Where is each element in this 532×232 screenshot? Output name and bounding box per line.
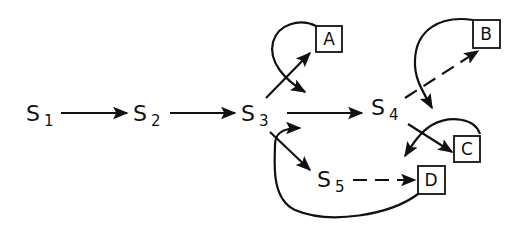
state-diagram: S 1 S 2 S 3 S 4 S 5 A B C D (0, 0, 532, 232)
node-s3: S 3 (241, 101, 269, 130)
svg-text:S: S (371, 95, 385, 120)
svg-text:S: S (241, 101, 255, 126)
svg-text:A: A (323, 29, 335, 49)
svg-text:S: S (317, 167, 331, 192)
node-s5: S 5 (317, 167, 345, 196)
terminal-c: C (454, 136, 480, 162)
node-s4: S 4 (371, 95, 399, 124)
node-s2: S 2 (133, 101, 161, 130)
edge-d-return (275, 128, 418, 217)
svg-text:S: S (26, 101, 40, 126)
svg-text:C: C (461, 139, 473, 159)
svg-text:D: D (424, 170, 437, 190)
svg-text:2: 2 (151, 112, 161, 130)
edge-s4-c (408, 124, 452, 152)
edge-a-return (272, 23, 316, 92)
svg-text:5: 5 (335, 178, 345, 196)
node-s1: S 1 (26, 101, 54, 130)
svg-text:3: 3 (259, 112, 269, 130)
terminal-b: B (473, 20, 500, 48)
svg-text:4: 4 (389, 106, 399, 124)
edge-b-return (415, 19, 473, 108)
svg-text:1: 1 (44, 112, 54, 130)
svg-text:S: S (133, 101, 147, 126)
terminal-d: D (418, 166, 445, 194)
svg-text:B: B (480, 24, 492, 44)
terminal-a: A (316, 26, 342, 52)
